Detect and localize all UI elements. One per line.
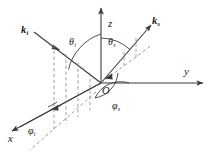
scattered-wave-vector-label: ks	[152, 16, 160, 27]
phi-s-subscript: s	[118, 105, 120, 112]
incident-plane-dashed-lines	[54, 45, 90, 131]
theta-s-label: θs	[108, 37, 116, 48]
theta-i-subscript: i	[74, 41, 76, 48]
phi-i-subscript: i	[34, 130, 36, 137]
scattered-projection-line	[101, 45, 152, 83]
scattering-geometry-figure: z y x O ki ks θi θs φi φs	[0, 0, 213, 160]
incident-ray-line	[34, 32, 101, 83]
phi-i-label: φi	[28, 126, 36, 137]
origin-label: O	[102, 86, 110, 97]
scattered-ray-line	[101, 25, 151, 83]
axis-label-x: x	[8, 133, 13, 144]
incident-wave-vector	[34, 32, 101, 83]
theta-s-subscript: s	[113, 41, 115, 48]
scattered-wave-vector	[101, 25, 151, 83]
incident-plane-lower-edge	[30, 92, 96, 150]
phi-s-label: φs	[112, 101, 120, 112]
incident-vector-subscript: i	[27, 29, 29, 36]
scattered-vector-subscript: s	[158, 20, 161, 27]
theta-i-label: θi	[69, 37, 76, 48]
incident-plane-dashed-edge	[30, 92, 96, 150]
incident-wave-vector-label: ki	[21, 25, 28, 36]
axis-label-z: z	[108, 18, 112, 29]
axis-label-y: y	[184, 66, 189, 77]
phi-i-arc-outer	[48, 102, 57, 107]
incident-ray-arrowhead	[52, 45, 61, 51]
